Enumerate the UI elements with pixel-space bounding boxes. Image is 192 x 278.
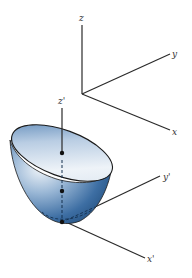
y-axis [82, 54, 170, 94]
x-axis-label: x [172, 127, 177, 137]
vertex-point [60, 220, 64, 224]
z-prime-label: z' [57, 96, 65, 106]
z-axis-label: z [78, 13, 84, 23]
upper-point [60, 151, 64, 155]
paraboloid-diagram: z y x z' y' x' [0, 0, 192, 278]
x-prime-label: x' [147, 254, 155, 264]
y-axis-label: y [171, 49, 178, 59]
fixed-frame: z y x [78, 13, 178, 137]
x-prime-axis [68, 223, 145, 258]
x-axis [82, 94, 170, 130]
y-prime-label: y' [162, 172, 171, 182]
middle-point [60, 189, 64, 193]
